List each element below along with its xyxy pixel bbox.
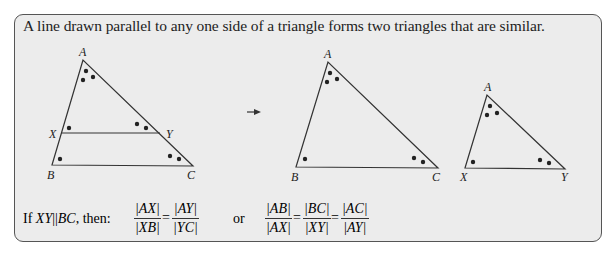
vertex-label-x: X (48, 127, 57, 141)
vertex-label-y: Y (561, 170, 569, 184)
figure-original-triangle (52, 60, 193, 166)
vertex-label-y: Y (166, 127, 174, 141)
vertex-label-a: A (78, 45, 87, 59)
figure-small-triangle (465, 95, 565, 169)
vertex-label-a: A (483, 80, 492, 94)
vertex-label-x: X (459, 170, 468, 184)
vertex-label-b: B (291, 170, 299, 184)
equals-sign: = (162, 210, 170, 226)
fraction-ac-ay: |AC| |AY| (341, 201, 369, 236)
fraction-ay-yc: |AY| |YC| (172, 201, 199, 236)
vertex-label-c: C (187, 168, 196, 182)
fraction-ax-xb: |AX| |XB| (134, 201, 161, 236)
vertex-label-b: B (47, 168, 55, 182)
equals-sign: = (331, 210, 339, 226)
equals-sign: = (293, 210, 301, 226)
figure-large-triangle (296, 62, 438, 168)
fraction-bc-xy: |BC| |XY| (303, 201, 331, 236)
triangle-abc (52, 60, 193, 166)
fraction-ab-ax: |AB| |AX| (265, 201, 292, 236)
vertex-label-c: C (432, 170, 441, 184)
connector-or: or (233, 211, 245, 227)
vertex-label-a: A (323, 47, 332, 61)
right-arrow-icon (247, 109, 261, 115)
condition-statement: If XY||BC, then: (23, 211, 111, 227)
